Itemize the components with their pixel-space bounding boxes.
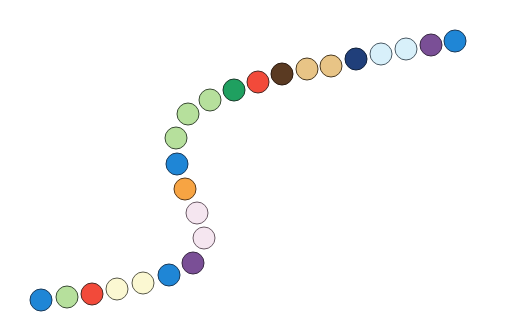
bead-13 bbox=[177, 103, 200, 126]
bead-15 bbox=[223, 79, 246, 102]
bead-23 bbox=[420, 34, 443, 57]
bead-5 bbox=[132, 272, 155, 295]
bead-chain-canvas bbox=[0, 0, 513, 332]
bead-14 bbox=[199, 89, 222, 112]
bead-7 bbox=[182, 252, 205, 275]
bead-21 bbox=[370, 43, 393, 66]
bead-6 bbox=[158, 264, 181, 287]
bead-22 bbox=[395, 38, 418, 61]
bead-20 bbox=[345, 48, 368, 71]
bead-9 bbox=[186, 202, 209, 225]
bead-17 bbox=[271, 63, 294, 86]
bead-8 bbox=[193, 227, 216, 250]
bead-12 bbox=[165, 127, 188, 150]
bead-24 bbox=[444, 30, 467, 53]
bead-4 bbox=[106, 278, 129, 301]
bead-1 bbox=[30, 289, 53, 312]
bead-19 bbox=[320, 55, 343, 78]
bead-11 bbox=[166, 153, 189, 176]
bead-18 bbox=[296, 58, 319, 81]
bead-3 bbox=[81, 283, 104, 306]
bead-10 bbox=[174, 178, 197, 201]
bead-2 bbox=[56, 286, 79, 309]
bead-16 bbox=[247, 71, 270, 94]
